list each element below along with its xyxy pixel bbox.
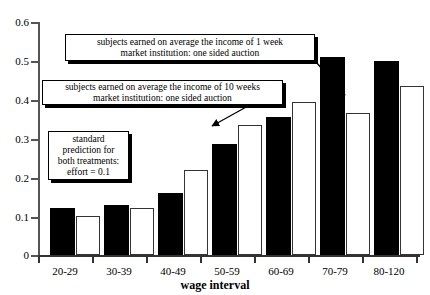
x-tick-label-70-79: 70-79	[308, 265, 362, 277]
bar-light-50-59	[238, 125, 262, 255]
bar-dark-70-79	[320, 57, 345, 255]
x-tick-label-30-39: 30-39	[92, 265, 146, 277]
bar-light-40-49	[184, 170, 208, 255]
x-tick-mark-3	[200, 255, 202, 263]
bar-light-70-79	[346, 113, 370, 255]
x-tick-mark-2	[146, 255, 148, 263]
chart-figure: 0.6 0.5 0.4 0.3 0.2 0.1 0	[0, 0, 430, 295]
x-tick-label-50-59: 50-59	[200, 265, 254, 277]
bar-dark-80-120	[374, 61, 399, 255]
x-tick-mark-7	[416, 255, 418, 263]
bar-light-60-69	[292, 102, 316, 255]
callout-standard-prediction-line2: prediction for	[58, 145, 119, 156]
callout-10-weeks-line2: market institution: one sided auction	[65, 93, 260, 104]
bar-dark-50-59	[212, 144, 237, 255]
x-tick-mark-0	[38, 255, 40, 263]
x-tick-mark-5	[308, 255, 310, 263]
x-axis-title: wage interval	[0, 278, 430, 293]
bar-dark-20-29	[50, 208, 75, 255]
callout-standard-prediction-line3: both treatments:	[58, 156, 119, 167]
x-tick-label-80-120: 80-120	[362, 265, 416, 277]
callout-1-week: subjects earned on average the income of…	[65, 34, 315, 61]
bar-dark-30-39	[104, 205, 129, 255]
bar-dark-60-69	[266, 117, 291, 255]
x-tick-label-40-49: 40-49	[146, 265, 200, 277]
bar-light-20-29	[76, 216, 100, 255]
callout-10-weeks: subjects earned on average the income of…	[42, 80, 283, 105]
callout-standard-prediction-line1: standard	[58, 134, 119, 145]
x-tick-mark-1	[92, 255, 94, 263]
callout-1-week-line1: subjects earned on average the income of…	[97, 37, 283, 48]
x-tick-label-20-29: 20-29	[38, 265, 92, 277]
x-tick-mark-4	[254, 255, 256, 263]
callout-10-weeks-line1: subjects earned on average the income of…	[65, 82, 260, 93]
bar-light-30-39	[130, 208, 154, 255]
x-tick-mark-6	[362, 255, 364, 263]
bar-light-80-120	[400, 86, 424, 255]
callout-1-week-line2: market institution: one sided auction	[97, 48, 283, 59]
callout-standard-prediction-line4: effort = 0.1	[58, 167, 119, 178]
callout-standard-prediction: standard prediction for both treatments:…	[48, 131, 129, 180]
x-tick-label-60-69: 60-69	[254, 265, 308, 277]
bar-dark-40-49	[158, 193, 183, 255]
